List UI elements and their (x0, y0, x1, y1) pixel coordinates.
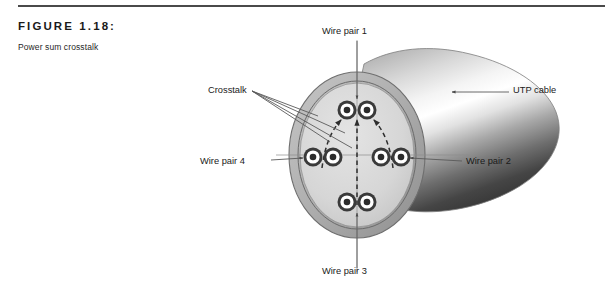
label-wire-pair-3: Wire pair 3 (322, 266, 367, 276)
figure-page: FIGURE 1.18: Power sum crosstalk (0, 0, 605, 298)
conductor (372, 148, 391, 167)
label-wire-pair-1: Wire pair 1 (322, 26, 367, 36)
conductor (324, 148, 343, 167)
conductor (392, 148, 411, 167)
label-crosstalk: Crosstalk (208, 85, 247, 95)
conductor (358, 101, 377, 120)
conductor (338, 193, 357, 212)
utp-cable-diagram (0, 0, 605, 298)
label-wire-pair-4: Wire pair 4 (200, 156, 245, 166)
conductor (358, 193, 377, 212)
label-utp-cable: UTP cable (513, 85, 556, 95)
label-wire-pair-2: Wire pair 2 (466, 156, 511, 166)
conductor (338, 101, 357, 120)
conductor (304, 148, 323, 167)
